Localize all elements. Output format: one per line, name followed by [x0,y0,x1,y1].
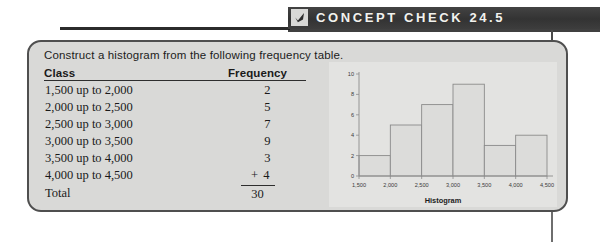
table-header-row: Class Frequency [44,67,306,81]
cell-class: 2,500 up to 3,000 [44,115,209,132]
y-tick-label: 0 [351,173,354,179]
histogram-bar [484,145,515,176]
table-row: 1,500 up to 2,000 2 [44,81,306,99]
table-row: 3,000 up to 3,500 9 [44,132,306,149]
cell-frequency: 2 [209,81,306,99]
histogram-chart: 0246810 1,5002,0002,5003,0003,5004,0004,… [329,62,557,207]
total-value-cell: 30 [209,183,306,202]
checkmark-icon [291,9,308,26]
page-title: CONCEPT CHECK 24.5 [316,10,505,26]
concept-check-banner: CONCEPT CHECK 24.5 [0,0,600,36]
y-tick-label: 2 [351,153,354,159]
panel-connector-bottom [551,212,553,242]
banner-rule [60,27,290,30]
cell-class: 3,500 up to 4,000 [44,149,209,166]
histogram-bar [422,105,453,176]
cell-frequency: 3 [209,149,306,166]
table-row: 4,000 up to 4,500 + 4 [44,166,306,183]
y-tick-label: 4 [351,132,354,138]
y-tick-label: 10 [348,71,354,77]
x-tick-label: 3,500 [477,182,491,188]
cell-frequency: 5 [209,98,306,115]
y-tick-label: 8 [351,91,354,97]
x-tick-label: 4,500 [540,182,554,188]
column-header-frequency: Frequency [209,67,306,81]
table-row: 2,000 up to 2,500 5 [44,98,306,115]
frequency-table: Class Frequency 1,500 up to 2,000 2 2,00… [44,67,306,202]
cell-class: 1,500 up to 2,000 [44,81,209,99]
table-row: 3,500 up to 4,000 3 [44,149,306,166]
cell-class: 4,000 up to 4,500 [44,166,209,183]
table-total-row: Total 30 [44,183,306,202]
column-header-class: Class [44,67,209,81]
x-tick-label: 3,000 [446,182,460,188]
x-tick-label: 2,500 [415,182,429,188]
histogram-bar [359,156,390,176]
histogram-bar [516,135,547,176]
y-tick-label: 6 [351,112,354,118]
histogram-bar [453,84,484,176]
histogram-bar [390,125,421,176]
x-axis-title: Histogram [425,196,462,205]
x-tick-label: 4,000 [509,182,523,188]
total-label: Total [44,183,209,202]
cell-frequency: 9 [209,132,306,149]
x-tick-label: 2,000 [383,182,397,188]
prompt-text: Construct a histogram from the following… [44,49,343,61]
x-tick-label: 1,500 [352,182,366,188]
table-row: 2,500 up to 3,000 7 [44,115,306,132]
concept-check-panel: Construct a histogram from the following… [27,40,568,212]
cell-class: 2,000 up to 2,500 [44,98,209,115]
banner-bar-shadow [288,29,600,32]
cell-frequency: + 4 [209,166,306,183]
cell-class: 3,000 up to 3,500 [44,132,209,149]
cell-frequency: 7 [209,115,306,132]
